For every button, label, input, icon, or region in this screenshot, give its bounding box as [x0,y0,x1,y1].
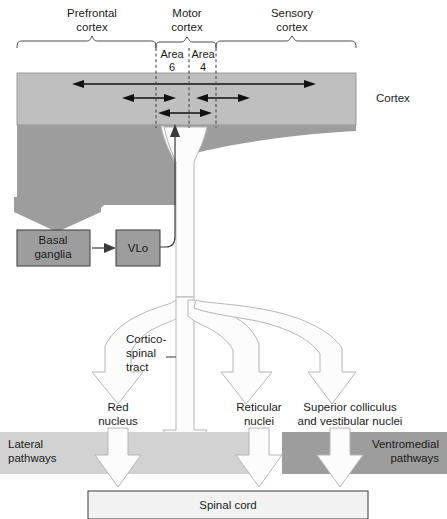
motor-bracket [156,37,216,48]
region-brackets [17,36,356,48]
basal-ganglia-label-line2: ganglia [34,248,72,260]
sensory-cortex-label-line2: cortex [276,21,308,33]
ventromedial-pathways-label-line1: Ventromedial [372,438,439,450]
ventromedial-pathways-label-line2: pathways [390,452,439,464]
area-4-label-line2: 4 [200,61,206,73]
red-nucleus-label-line2: nucleus [98,415,138,427]
top-region-labels: Prefrontal cortex Motor cortex Sensory c… [67,7,313,33]
reticular-nuclei-label-line2: nuclei [244,415,274,427]
prefrontal-bracket [17,36,156,48]
basal-ganglia-label-line1: Basal [39,234,68,246]
superior-colliculus-label-line2: and vestibular nuclei [298,415,403,427]
lateral-pathways-label-line1: Lateral [8,438,43,450]
area-4-label-line1: Area [191,48,215,60]
basal-ganglia-input-shaft [14,197,101,209]
corticospinal-tract-label: Cortico- spinal tract [126,333,176,373]
basal-ganglia-to-vlo-arrow [92,243,116,253]
basal-ganglia-input-arrowhead [14,208,101,232]
reticular-nuclei-label-line1: Reticular [236,401,282,413]
corticospinal-label-line1: Cortico- [126,333,166,345]
prefrontal-cortex-label-line1: Prefrontal [67,7,117,19]
vlo-label: VLo [128,242,148,254]
motor-cortex-label-line2: cortex [171,21,203,33]
target-nuclei-labels: Red nucleus Reticular nuclei Superior co… [98,401,402,427]
motor-cortex-label-line1: Motor [172,7,202,19]
red-nucleus-label-line1: Red [107,401,128,413]
superior-colliculus-label-line1: Superior colliculus [303,401,397,413]
sensory-cortex-label-line1: Sensory [271,7,313,19]
sensory-bracket [216,36,356,48]
motor-subregion-labels: Area 6 Area 4 [160,48,215,73]
vlo-box: VLo [116,230,160,266]
motor-pathways-diagram: Prefrontal cortex Motor cortex Sensory c… [0,0,447,519]
area-6-label-line1: Area [160,48,184,60]
corticospinal-label-line2: spinal [126,347,156,359]
spinal-cord-box: Spinal cord [88,491,368,519]
spinal-cord-label: Spinal cord [199,499,257,511]
lateral-pathways-label-line2: pathways [8,452,57,464]
prefrontal-cortex-label-line2: cortex [76,21,108,33]
cortex-side-label: Cortex [376,92,410,104]
area-6-label-line2: 6 [169,61,175,73]
corticospinal-label-line3: tract [126,361,149,373]
basal-ganglia-box: Basal ganglia [17,230,90,266]
